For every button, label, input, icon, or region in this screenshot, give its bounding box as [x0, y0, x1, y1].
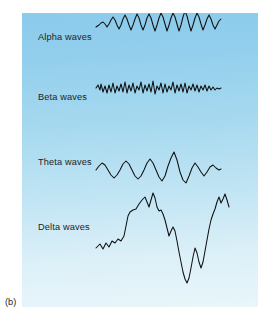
wave-panel: Alpha waves Beta waves Theta waves Delta…	[22, 13, 258, 307]
figure-caption: (b)	[5, 297, 16, 307]
delta-waveform-trace	[96, 193, 229, 283]
theta-waveform-trace	[96, 152, 221, 183]
eeg-waveform-figure: Alpha waves Beta waves Theta waves Delta…	[0, 0, 267, 328]
alpha-waves-label: Alpha waves	[38, 32, 92, 42]
beta-waves-label: Beta waves	[38, 92, 87, 102]
alpha-waveform-trace	[96, 13, 221, 31]
theta-waves-label: Theta waves	[38, 157, 92, 167]
delta-waves-label: Delta waves	[38, 222, 90, 232]
beta-waveform-trace	[96, 81, 221, 94]
